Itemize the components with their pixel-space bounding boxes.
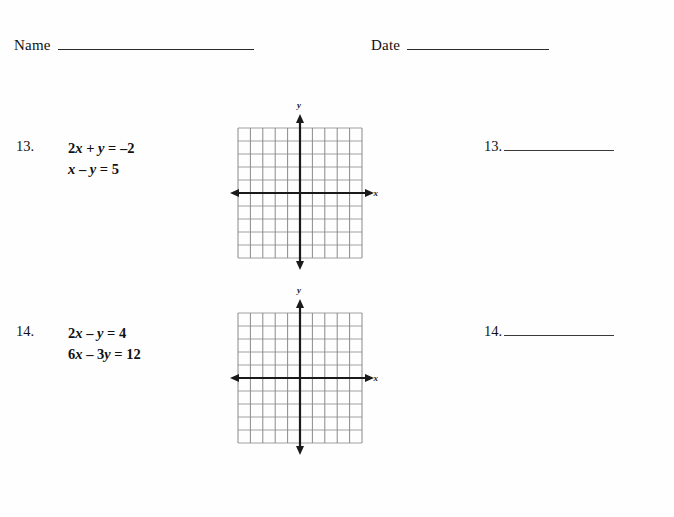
y-axis-label: y [296,100,302,110]
x-axis-label: x [373,188,379,198]
problem-13-equations: 2x + y = –2 x – y = 5 [68,138,134,180]
x-axis [230,374,374,382]
y-axis-label: y [296,285,302,295]
date-label: Date [371,37,400,54]
x-axis [230,189,374,197]
date-field[interactable]: Date [371,36,549,54]
header-row: Name Date [0,36,674,60]
worksheet-page: Name Date 13. 2x + y = –2 x – y = 5 13. [0,0,674,517]
name-write-line[interactable] [58,36,254,50]
coordinate-grid-14[interactable]: y x [228,283,378,455]
problem-14-number: 14. [16,323,34,340]
answer-13-number: 13. [484,138,502,155]
date-write-line[interactable] [407,36,549,50]
problem-14-equations: 2x – y = 4 6x – 3y = 12 [68,323,141,365]
answer-13-write-line[interactable] [504,139,614,151]
answer-14-number: 14. [484,323,502,340]
x-axis-label: x [373,373,379,383]
problem-13-equation-1: 2x + y = –2 [68,138,134,159]
answer-14-write-line[interactable] [504,324,614,336]
answer-slot-13[interactable]: 13. [484,138,614,155]
problem-14-equation-2: 6x – 3y = 12 [68,344,141,365]
name-label: Name [14,37,51,54]
problem-13-number: 13. [16,138,34,155]
problem-14-equation-1: 2x – y = 4 [68,323,141,344]
answer-slot-14[interactable]: 14. [484,323,614,340]
problem-13-equation-2: x – y = 5 [68,159,134,180]
name-field[interactable]: Name [14,36,254,54]
coordinate-grid-13[interactable]: y x [228,98,378,270]
